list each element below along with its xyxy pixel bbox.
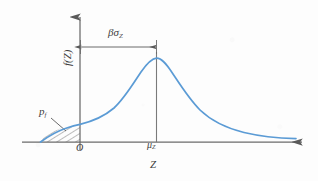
- density-axis-label: f(Z): [62, 50, 73, 67]
- origin-label: O: [76, 143, 83, 153]
- beta-sigma-label: βσZ: [108, 27, 123, 39]
- mean-label: μZ: [147, 140, 155, 151]
- figure-canvas: [0, 0, 318, 181]
- pf-subscript: f: [45, 111, 47, 118]
- variable-axis-label: Z: [150, 159, 156, 170]
- beta-sigma-base: βσ: [108, 26, 119, 38]
- failure-probability-label: pf: [39, 106, 46, 118]
- failure-region-hatch: [41, 125, 81, 143]
- beta-sigma-subscript: Z: [119, 32, 123, 39]
- probability-density-figure: βσZ f(Z) pf O μZ Z: [0, 0, 318, 181]
- mu-subscript: Z: [152, 143, 155, 150]
